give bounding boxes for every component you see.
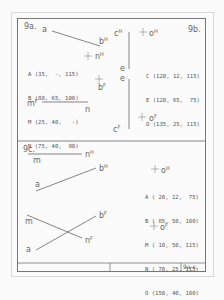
coordinate-row: O (150, 40, 100) (145, 289, 199, 297)
coordinate-row: A (35, -, 115) (28, 70, 79, 78)
label-nH-9a: nH (95, 53, 104, 61)
point-oF-marker-9b (138, 113, 146, 121)
coordinate-row: B ( 85, 50, 100) (145, 217, 199, 225)
coordinate-row: M ( 10, 50, 115) (145, 241, 199, 249)
label-a-9a: a (42, 26, 47, 34)
label-bF-9a: bF (98, 84, 106, 92)
coordinate-row: B (88, 65, 100) (28, 94, 79, 102)
label-bH-9a: bH (99, 38, 108, 46)
panel-title-9b: 9b. (188, 25, 201, 34)
panel-title-9c: 9c. (23, 145, 35, 154)
point-oH-marker-9b (139, 28, 147, 36)
sheet-id-label: 9a-c (183, 263, 196, 271)
label-m-top-9c: m (33, 157, 41, 165)
label-e-top-9b: e (120, 65, 125, 73)
label-bF-9c: bF (99, 212, 107, 220)
label-m-bottom-9c: m (25, 218, 33, 226)
label-e-bottom-9b: e (120, 75, 125, 83)
line-ab-horizontal-9c (36, 168, 96, 191)
label-n-9a: n (85, 106, 90, 114)
line-ab-horizontal-9a (52, 31, 100, 46)
label-nF-9c: nF (85, 237, 93, 245)
coordinate-row: M (25, 40, -) (28, 118, 79, 126)
coordinates-list-9a: A (35, -, 115) B (88, 65, 100) M (25, 40… (28, 54, 79, 158)
point-bF-marker (95, 75, 103, 83)
line-mn-frontal-9c (27, 215, 82, 238)
label-bH-9c: bH (99, 165, 108, 173)
label-a-bottom-9c: a (26, 246, 31, 254)
point-oH-marker-9c (151, 165, 159, 173)
coordinates-list-9b: C (120, 12, 115) E (120, 65, 75) O (135,… (146, 56, 200, 136)
label-nH-9c: nH (85, 151, 94, 159)
coordinate-row: A ( 20, 12, 75) (145, 193, 199, 201)
point-nH-marker (84, 52, 92, 60)
panel-title-9a: 9a. (24, 22, 37, 31)
label-cF-9b: cF (113, 126, 120, 134)
coordinate-row: C (120, 12, 115) (146, 72, 200, 80)
coordinate-row: N (75, 40, 90) (28, 142, 79, 150)
label-oH-9c: oH (161, 167, 170, 175)
label-oH-9b: oH (149, 30, 158, 38)
label-cH-9b: cH (114, 30, 122, 38)
coordinates-list-9c: A ( 20, 12, 75) B ( 85, 50, 100) M ( 10,… (145, 177, 199, 300)
coordinate-row: O (135, 25, 115) (146, 120, 200, 128)
coordinate-row: E (120, 65, 75) (146, 96, 200, 104)
label-a-top-9c: a (35, 181, 40, 189)
